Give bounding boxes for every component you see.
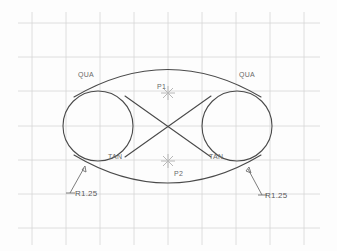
snap-label-tan-left: TAN [108,153,122,160]
point-marker-p2 [161,154,175,168]
point-label-p1: P1 [157,83,166,90]
snap-label-tan-right: TAN [209,153,223,160]
snap-label-qua-right: QUA [239,71,255,79]
dimension-label-radius-left: R1.25 [75,189,98,198]
cad-drawing-svg[interactable]: QUA QUA TAN TAN P1 P2 R1.25 R1.25 [0,0,337,251]
snap-label-qua-left: QUA [78,71,94,79]
point-label-p2: P2 [174,170,183,177]
cad-drawing-canvas[interactable]: QUA QUA TAN TAN P1 P2 R1.25 R1.25 [0,0,337,251]
dimension-label-radius-right: R1.25 [265,191,288,200]
